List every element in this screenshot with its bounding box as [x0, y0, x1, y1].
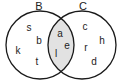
element-c: c	[83, 21, 88, 32]
venn-diagram: B C s b k t a e l c h r d	[0, 0, 117, 81]
element-h: h	[99, 35, 105, 46]
element-a: a	[57, 28, 63, 39]
element-e: e	[64, 40, 70, 51]
element-k: k	[16, 45, 22, 56]
set-b-label: B	[35, 0, 42, 12]
element-d: d	[91, 56, 97, 67]
set-c-label: C	[79, 0, 87, 12]
element-t: t	[36, 56, 39, 67]
element-s: s	[27, 22, 32, 33]
element-l: l	[55, 48, 57, 59]
element-r: r	[84, 42, 88, 53]
element-b: b	[36, 35, 42, 46]
